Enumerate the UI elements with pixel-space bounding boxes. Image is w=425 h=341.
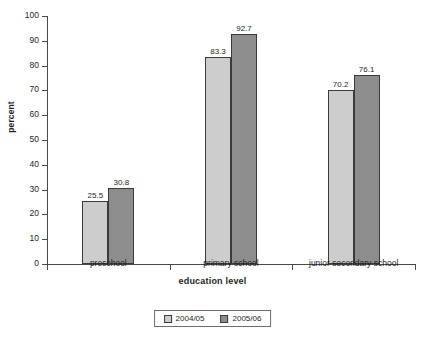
bar-value-label: 70.2 [333, 80, 349, 89]
y-axis-tick-label: 90 [30, 35, 39, 45]
y-axis-tick: 90 [42, 41, 47, 42]
bar: 30.8 [108, 188, 134, 264]
bar-value-label: 83.3 [210, 47, 226, 56]
y-axis-tick: 20 [42, 214, 47, 215]
bar-value-label: 76.1 [359, 65, 375, 74]
y-axis-tick-label: 50 [30, 134, 39, 144]
bar: 76.1 [354, 75, 380, 264]
bar: 92.7 [231, 34, 257, 264]
x-axis-tick [415, 264, 416, 270]
bar-value-label: 92.7 [236, 24, 252, 33]
y-axis-tick-label: 10 [30, 233, 39, 243]
y-axis-tick: 80 [42, 66, 47, 67]
legend: 2004/052005/06 [154, 310, 272, 327]
y-axis-line [47, 16, 48, 265]
bar-value-label: 30.8 [114, 178, 130, 187]
x-axis-title: education level [0, 276, 425, 286]
x-axis-category-label: junior secondary school [292, 258, 415, 268]
x-axis-category-label: primary school [170, 258, 293, 268]
y-axis-tick-label: 80 [30, 60, 39, 70]
legend-label: 2005/06 [233, 314, 262, 323]
legend-label: 2004/05 [176, 314, 205, 323]
bar: 70.2 [328, 90, 354, 264]
y-axis-tick-label: 20 [30, 208, 39, 218]
legend-swatch-icon [221, 315, 229, 323]
bar-chart: percent 0102030405060708090100 25.530.88… [0, 0, 425, 341]
y-axis-tick: 100 [42, 16, 47, 17]
x-axis-category-label: preschool [47, 258, 170, 268]
plot-area: 0102030405060708090100 25.530.883.392.77… [47, 16, 415, 264]
y-axis-tick: 30 [42, 190, 47, 191]
y-axis-tick-label: 40 [30, 159, 39, 169]
y-axis-tick: 50 [42, 140, 47, 141]
y-axis-title: percent [6, 82, 16, 152]
y-axis-tick-label: 30 [30, 184, 39, 194]
y-axis-tick: 60 [42, 115, 47, 116]
y-axis-tick: 40 [42, 165, 47, 166]
legend-item[interactable]: 2004/05 [164, 314, 205, 323]
legend-item[interactable]: 2005/06 [221, 314, 262, 323]
y-axis-tick-label: 0 [34, 258, 39, 268]
y-axis-tick-label: 70 [30, 84, 39, 94]
bar-value-label: 25.5 [88, 191, 104, 200]
y-axis-tick: 70 [42, 90, 47, 91]
bar: 83.3 [205, 57, 231, 264]
y-axis-tick: 10 [42, 239, 47, 240]
legend-swatch-icon [164, 315, 172, 323]
y-axis-tick-label: 100 [25, 10, 39, 20]
bar: 25.5 [82, 201, 108, 264]
y-axis-tick-label: 60 [30, 109, 39, 119]
